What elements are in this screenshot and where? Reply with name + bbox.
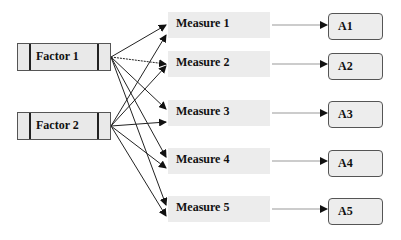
- measure-label: Measure 3: [176, 104, 229, 119]
- outcome-a2-box: A2: [328, 53, 383, 80]
- outcome-label: A4: [338, 156, 353, 171]
- measure-label: Measure 5: [176, 200, 229, 215]
- box-divider: [97, 113, 99, 139]
- measure-label: Measure 2: [176, 55, 229, 70]
- measure-3-box: Measure 3: [168, 100, 270, 126]
- factor-1-box: Factor 1: [17, 43, 111, 71]
- measure-2-box: Measure 2: [168, 51, 270, 77]
- box-divider: [29, 44, 31, 70]
- box-divider: [97, 44, 99, 70]
- measure-label: Measure 4: [176, 152, 229, 167]
- box-divider: [29, 113, 31, 139]
- measure-5-box: Measure 5: [168, 196, 270, 222]
- factor-label: Factor 2: [36, 118, 79, 133]
- outcome-a1-box: A1: [328, 13, 383, 40]
- factor-label: Factor 1: [36, 49, 79, 64]
- outcome-a3-box: A3: [328, 101, 383, 128]
- diagram-canvas: Factor 1 Factor 2 Measure 1 Measure 2 Me…: [0, 0, 401, 240]
- measure-1-box: Measure 1: [168, 12, 270, 38]
- factor-2-box: Factor 2: [17, 112, 111, 140]
- outcome-label: A3: [338, 107, 353, 122]
- outcome-a4-box: A4: [328, 150, 383, 177]
- measure-label: Measure 1: [176, 16, 229, 31]
- outcome-label: A2: [338, 59, 353, 74]
- outcome-label: A5: [338, 204, 353, 219]
- outcome-a5-box: A5: [328, 198, 383, 225]
- outcome-label: A1: [338, 19, 353, 34]
- measure-4-box: Measure 4: [168, 148, 270, 174]
